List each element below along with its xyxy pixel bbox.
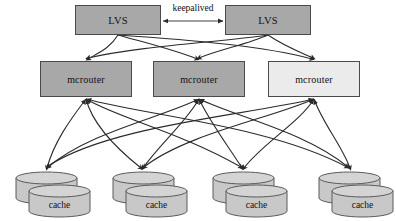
mcrouter-to-cache-edges	[47, 99, 350, 168]
node-mcrouter-2[interactable]: mcrouter	[153, 61, 245, 97]
node-label: LVS	[108, 15, 127, 26]
cache-cylinder-front: cache	[225, 185, 288, 221]
node-lvs-right[interactable]: LVS	[225, 5, 311, 35]
node-label: mcrouter	[295, 74, 333, 85]
keepalived-label: keepalived	[157, 3, 229, 13]
node-label: mcrouter	[180, 74, 218, 85]
node-label: mcrouter	[67, 74, 105, 85]
lvs-to-mcrouter-edges	[88, 35, 313, 59]
cache-cylinder-front: cache	[331, 185, 394, 221]
node-label: LVS	[258, 15, 277, 26]
node-lvs-left[interactable]: LVS	[75, 5, 161, 35]
node-mcrouter-3[interactable]: mcrouter	[268, 61, 360, 97]
cache-cylinder-front: cache	[125, 185, 188, 221]
architecture-diagram: LVS LVS keepalived mcrouter mcrouter mcr…	[0, 0, 396, 221]
node-mcrouter-1[interactable]: mcrouter	[40, 61, 132, 97]
cache-cylinder-front: cache	[28, 185, 91, 221]
